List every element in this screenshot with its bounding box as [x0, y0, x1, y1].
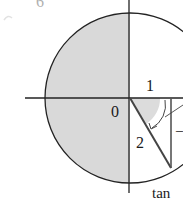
- label-dash: –: [176, 124, 183, 138]
- label-two: 2: [136, 135, 144, 151]
- label-origin: 0: [111, 104, 119, 120]
- corner-label: 6: [36, 0, 44, 10]
- label-one: 1: [146, 78, 154, 94]
- shaded-left-half: [40, 10, 130, 190]
- shaded-angle-sector: [130, 98, 160, 124]
- unit-circle-diagram: 6 1 0 2 – tan: [0, 0, 183, 200]
- label-tan: tan: [152, 186, 170, 200]
- leader-line: [165, 105, 183, 117]
- faint-mark: [4, 16, 12, 20]
- diagram-canvas: [0, 0, 183, 200]
